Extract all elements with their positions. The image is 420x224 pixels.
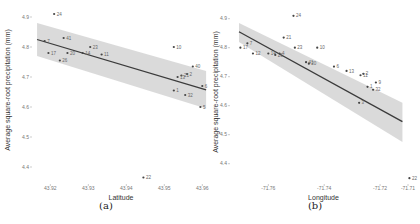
data-point — [366, 86, 368, 88]
x-tick-label: -71.74 — [317, 185, 331, 191]
data-point-label: 9 — [378, 80, 381, 85]
y-tick-label: 4.7 — [22, 74, 29, 80]
data-point — [173, 89, 175, 91]
y-axis-title: Average square-root precipitation (mm) — [212, 31, 220, 153]
caption-b: (b) — [295, 200, 335, 211]
data-point-label: 10 — [176, 45, 182, 50]
y-tick-label: 4.4 — [220, 160, 227, 166]
data-point — [184, 94, 186, 96]
data-point — [47, 52, 49, 54]
data-point-label: 11 — [104, 52, 109, 57]
data-point — [294, 47, 296, 49]
data-point — [359, 74, 361, 76]
data-point — [308, 63, 310, 65]
data-point — [345, 70, 347, 72]
data-point — [82, 52, 84, 54]
data-point — [372, 89, 374, 91]
data-point-label: 22 — [412, 176, 418, 181]
data-point-label: 14 — [85, 51, 91, 56]
data-point-label: 13 — [349, 69, 355, 74]
data-point — [63, 37, 65, 39]
data-point-label: 6 — [205, 84, 208, 89]
scatter-plot-longitude: 4.44.54.64.74.84.9-71.76-71.74-71.72-71.… — [210, 0, 420, 224]
y-tick-label: 4.6 — [22, 104, 29, 110]
data-point-label: 6 — [336, 64, 339, 69]
data-point-label: 20 — [70, 51, 76, 56]
y-tick-label: 4.7 — [220, 73, 227, 79]
x-tick-label: -71.72 — [373, 185, 387, 191]
data-point — [305, 61, 307, 63]
data-point — [177, 76, 179, 78]
data-point-label: 24 — [57, 12, 63, 17]
data-point — [252, 52, 254, 54]
y-tick-label: 4.5 — [22, 134, 29, 140]
data-point — [283, 36, 285, 38]
data-point — [199, 106, 201, 108]
data-point — [66, 52, 68, 54]
x-tick-label: 43.94 — [120, 185, 133, 191]
scatter-plot-latitude: 4.44.54.64.74.84.943.9243.9343.9443.9543… — [0, 0, 210, 224]
data-point — [292, 15, 294, 17]
data-point — [358, 102, 360, 104]
y-tick-label: 4.4 — [22, 164, 29, 170]
y-tick-label: 4.9 — [22, 14, 29, 20]
data-point — [201, 85, 203, 87]
data-point — [59, 59, 61, 61]
data-point — [101, 53, 103, 55]
data-point-label: 17 — [243, 45, 249, 50]
y-axis-title: Average square-root precipitation (mm) — [4, 29, 12, 151]
confidence-band — [37, 23, 206, 109]
data-point-label: 11 — [363, 73, 368, 78]
data-point — [89, 46, 91, 48]
data-point-label: 21 — [286, 35, 292, 40]
data-point — [44, 40, 46, 42]
y-tick-label: 4.8 — [22, 44, 29, 50]
data-point-label: 23 — [297, 45, 303, 50]
data-point-label: 17 — [51, 51, 57, 56]
data-point — [278, 52, 280, 54]
data-point-label: 10 — [320, 45, 326, 50]
y-tick-label: 4.8 — [220, 44, 227, 50]
y-tick-label: 4.9 — [220, 15, 227, 21]
data-point-label: 32 — [188, 93, 194, 98]
data-point — [192, 65, 194, 67]
data-point — [239, 47, 241, 49]
data-point — [173, 46, 175, 48]
data-point-label: 26 — [62, 58, 68, 63]
data-point-label: 23 — [93, 45, 99, 50]
data-point — [408, 177, 410, 179]
data-point — [142, 176, 144, 178]
data-point-label: 40 — [195, 64, 201, 69]
data-point-label: 24 — [296, 13, 302, 18]
chart-panel-b: 4.44.54.64.74.84.9-71.76-71.74-71.72-71.… — [210, 0, 420, 224]
data-point — [274, 54, 276, 56]
chart-panel-a: 4.44.54.64.74.84.943.9243.9343.9443.9543… — [0, 0, 210, 224]
data-point-label: 13 — [180, 75, 186, 80]
y-tick-label: 4.5 — [220, 131, 227, 137]
data-point-label: 20 — [311, 61, 317, 66]
data-point — [246, 42, 248, 44]
data-point — [53, 13, 55, 15]
data-point-label: 12 — [255, 51, 261, 56]
y-tick-label: 4.6 — [220, 102, 227, 108]
data-point-label: 22 — [146, 175, 152, 180]
x-tick-label: 43.92 — [44, 185, 57, 191]
data-point — [316, 47, 318, 49]
x-tick-label: -71.71 — [401, 185, 415, 191]
data-point-label: 41 — [66, 36, 72, 41]
caption-a: (a) — [86, 200, 126, 211]
x-tick-label: 43.93 — [82, 185, 95, 191]
x-tick-label: -71.76 — [261, 185, 275, 191]
x-tick-label: 43.96 — [196, 185, 209, 191]
x-tick-label: 43.95 — [158, 185, 171, 191]
data-point — [333, 65, 335, 67]
data-point — [375, 81, 377, 83]
data-point-label: 32 — [376, 87, 382, 92]
data-point — [267, 52, 269, 54]
